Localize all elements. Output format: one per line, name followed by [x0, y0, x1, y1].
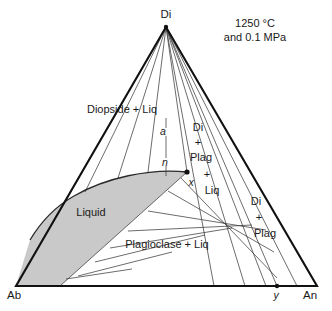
tie-line-to-x	[166, 27, 187, 172]
vertex-label-ab: Ab	[7, 289, 21, 301]
field-label-di-plag-line3: Plag	[254, 227, 276, 239]
field-label-di-plag-line1: Di	[251, 195, 261, 207]
field-label-di-plag-liq-line5: Liq	[205, 184, 220, 196]
tie-line	[128, 225, 252, 231]
point-label-n: n	[162, 156, 168, 168]
di-apex-dot	[164, 25, 168, 29]
vertex-label-di: Di	[161, 8, 172, 20]
tie-line	[148, 27, 166, 172]
field-label-plagioclase-liq: Plagioclase + Liq	[125, 238, 208, 250]
base-point-y-dot	[275, 284, 279, 288]
field-label-diopside-liq: Diopside + Liq	[87, 103, 157, 115]
field-label-di-plag-liq-line3: Plag	[190, 151, 212, 163]
field-label-di-plag-line2: +	[256, 211, 262, 223]
point-label-x: x	[187, 176, 194, 188]
field-label-di-plag: Di + Plag	[251, 195, 276, 239]
field-label-di-plag-liq-line1: Di	[193, 121, 203, 133]
field-label-di-plag-liq-line2: +	[195, 136, 201, 148]
field-label-di-plag-liq-line4: +	[204, 168, 210, 180]
cotectic-point-x-dot	[184, 169, 189, 174]
condition-pressure: and 0.1 MPa	[224, 31, 287, 43]
vertex-label-an: An	[303, 289, 317, 301]
field-label-di-plag-liq: Di + Plag + Liq	[190, 121, 219, 196]
phase-diagram-figure: Di Ab An 1250 °C and 0.1 MPa Diopside + …	[0, 0, 332, 311]
ternary-diagram-canvas: Di Ab An 1250 °C and 0.1 MPa Diopside + …	[0, 0, 332, 311]
point-label-a: a	[160, 125, 166, 137]
point-label-y: y	[272, 289, 279, 301]
condition-temperature: 1250 °C	[235, 17, 275, 29]
liquid-field-shape	[16, 171, 187, 286]
field-label-liquid: Liquid	[76, 206, 105, 218]
